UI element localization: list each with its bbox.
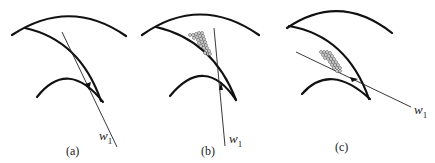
particle-cluster (320, 51, 342, 73)
panel-label-b: (b) (201, 144, 215, 159)
outer-shroud-arc (12, 16, 126, 36)
panel-c (287, 11, 411, 107)
outer-shroud-arc (142, 15, 259, 36)
vector-label-w1-a: w1 (99, 128, 112, 146)
panel-label-c: (c) (335, 140, 348, 155)
vector-label-w1-c: w1 (414, 102, 427, 120)
impeller-inlet-diagram (0, 0, 435, 163)
panel-b (142, 15, 259, 147)
vector-label-w1-b: w1 (229, 131, 242, 149)
panel-label-a: (a) (66, 144, 79, 159)
velocity-vector-w1 (214, 28, 225, 146)
particle-cluster (189, 32, 212, 56)
